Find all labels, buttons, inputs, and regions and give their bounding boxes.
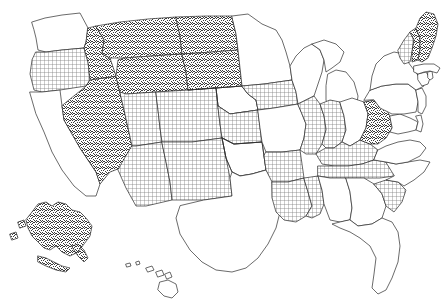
state-NM[interactable]: New Mexico — [162, 138, 232, 200]
state-RI[interactable]: Rhode Island — [428, 71, 433, 80]
state-CO[interactable]: Colorado — [156, 88, 222, 142]
state-AR[interactable]: Arkansas — [264, 150, 304, 182]
state-SD[interactable]: South Dakota — [182, 50, 242, 90]
us-map-svg: Washington Oregon California Nevada Idah… — [0, 0, 445, 308]
us-choropleth-map: Washington Oregon California Nevada Idah… — [0, 0, 445, 308]
state-OR[interactable]: Oregon — [30, 48, 90, 92]
state-ND[interactable]: North Dakota — [176, 16, 238, 54]
state-WY[interactable]: Wyoming — [116, 54, 188, 94]
state-MO[interactable]: Missouri — [258, 104, 306, 152]
